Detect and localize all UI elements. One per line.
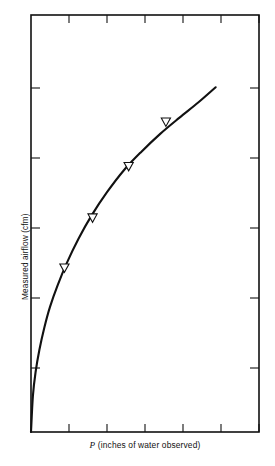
right-axis-ticks <box>250 88 259 368</box>
data-curve <box>31 87 216 432</box>
left-axis-ticks <box>31 88 40 368</box>
top-axis-ticks <box>69 15 259 23</box>
data-point-markers <box>60 118 171 272</box>
x-axis-units-text: (inches of water observed) <box>98 440 201 450</box>
airflow-pressure-chart: Measured airflow (cfm) P (inches of wate… <box>0 0 275 466</box>
bottom-axis-ticks <box>69 424 259 432</box>
chart-canvas <box>0 0 275 466</box>
x-axis-label: P (inches of water observed) <box>31 441 259 450</box>
data-point-marker <box>60 264 69 272</box>
plot-frame <box>31 15 259 432</box>
